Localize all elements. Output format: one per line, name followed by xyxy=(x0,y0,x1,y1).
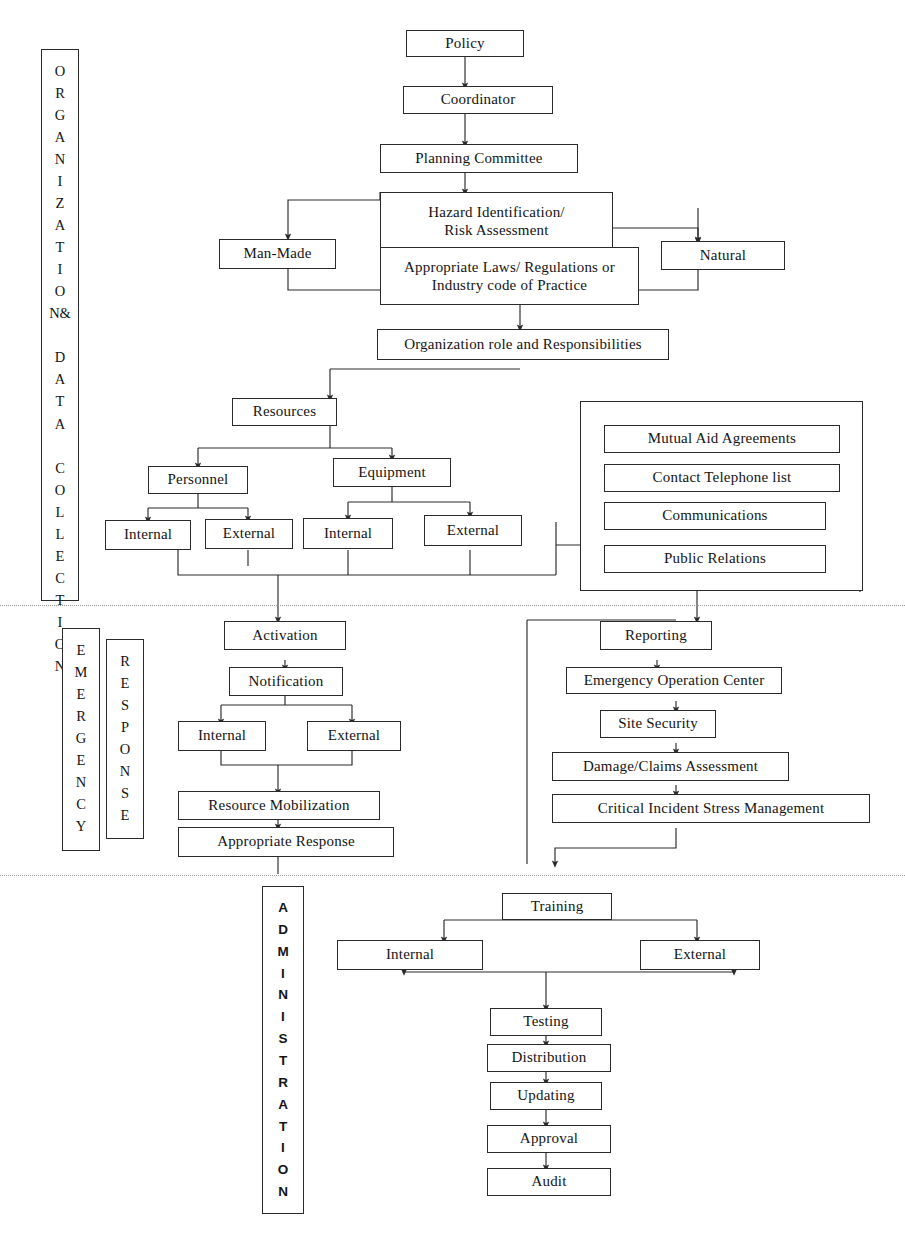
node-equipment-label: Equipment xyxy=(358,464,426,482)
connector-lines xyxy=(0,0,905,1242)
band-label-emergency-text: E M E R G E N C Y xyxy=(75,639,88,837)
node-planning-committee-label: Planning Committee xyxy=(415,150,542,168)
node-communications-label: Communications xyxy=(662,507,767,525)
node-public-relations-label: Public Relations xyxy=(664,550,766,568)
node-notification[interactable]: Notification xyxy=(229,667,343,696)
node-emergency-operation-center[interactable]: Emergency Operation Center xyxy=(566,667,782,694)
node-appropriate-laws-label: Appropriate Laws/ Regulations or Industr… xyxy=(404,258,615,295)
section-divider-top xyxy=(0,605,905,606)
node-personnel[interactable]: Personnel xyxy=(148,466,248,494)
node-appropriate-laws[interactable]: Appropriate Laws/ Regulations or Industr… xyxy=(380,247,639,305)
node-public-relations[interactable]: Public Relations xyxy=(604,545,826,573)
band-label-administration: A D M I N I S T R A T I O N xyxy=(262,886,304,1214)
node-policy-label: Policy xyxy=(445,35,485,53)
node-training-label: Training xyxy=(531,898,584,916)
node-activation[interactable]: Activation xyxy=(224,621,346,650)
node-critical-incident-stress-management[interactable]: Critical Incident Stress Management xyxy=(552,794,870,823)
node-notify-internal[interactable]: Internal xyxy=(178,721,266,751)
node-activation-label: Activation xyxy=(252,627,317,645)
node-coordinator-label: Coordinator xyxy=(441,91,516,109)
node-resources[interactable]: Resources xyxy=(232,398,337,426)
node-resources-label: Resources xyxy=(253,403,316,421)
node-personnel-internal-label: Internal xyxy=(124,526,172,544)
node-updating[interactable]: Updating xyxy=(490,1082,602,1110)
node-critical-incident-stress-management-label: Critical Incident Stress Management xyxy=(598,800,825,818)
node-personnel-label: Personnel xyxy=(168,471,229,489)
node-distribution-label: Distribution xyxy=(512,1049,587,1067)
node-site-security-label: Site Security xyxy=(618,715,698,733)
node-audit[interactable]: Audit xyxy=(487,1168,611,1196)
node-training-external[interactable]: External xyxy=(640,940,760,970)
node-personnel-external-label: External xyxy=(223,525,275,543)
node-testing[interactable]: Testing xyxy=(490,1008,602,1036)
node-audit-label: Audit xyxy=(531,1173,566,1191)
node-reporting[interactable]: Reporting xyxy=(600,621,712,650)
node-mutual-aid-agreements-label: Mutual Aid Agreements xyxy=(648,430,796,448)
node-reporting-label: Reporting xyxy=(625,627,687,645)
node-damage-claims-assessment[interactable]: Damage/Claims Assessment xyxy=(552,752,789,781)
node-man-made-label: Man-Made xyxy=(243,245,311,263)
node-notify-internal-label: Internal xyxy=(198,727,246,745)
node-testing-label: Testing xyxy=(523,1013,568,1031)
band-label-organization-text: O R G A N I Z A T I O N& D A T A C O L L… xyxy=(49,60,71,677)
node-natural-label: Natural xyxy=(700,247,746,265)
node-personnel-internal[interactable]: Internal xyxy=(105,520,191,550)
band-label-administration-text: A D M I N I S T R A T I O N xyxy=(277,897,288,1203)
node-organization-role[interactable]: Organization role and Responsibilities xyxy=(377,329,669,360)
band-label-emergency: E M E R G E N C Y xyxy=(62,628,100,851)
node-communications[interactable]: Communications xyxy=(604,502,826,530)
node-planning-committee[interactable]: Planning Committee xyxy=(380,144,578,173)
node-hazard-identification-label: Hazard Identification/ Risk Assessment xyxy=(428,203,564,240)
node-notification-label: Notification xyxy=(249,673,324,691)
node-training[interactable]: Training xyxy=(502,893,612,920)
node-distribution[interactable]: Distribution xyxy=(487,1044,611,1072)
node-hazard-identification[interactable]: Hazard Identification/ Risk Assessment xyxy=(380,192,613,250)
node-approval-label: Approval xyxy=(520,1130,578,1148)
node-resource-mobilization[interactable]: Resource Mobilization xyxy=(178,791,380,820)
node-equipment-external[interactable]: External xyxy=(424,515,522,546)
section-divider-bottom xyxy=(0,875,905,876)
node-mutual-aid-agreements[interactable]: Mutual Aid Agreements xyxy=(604,425,840,453)
band-label-organization: O R G A N I Z A T I O N& D A T A C O L L… xyxy=(41,49,79,601)
node-personnel-external[interactable]: External xyxy=(205,519,293,549)
flowchart-canvas: O R G A N I Z A T I O N& D A T A C O L L… xyxy=(0,0,905,1242)
node-training-internal[interactable]: Internal xyxy=(337,940,483,970)
node-contact-telephone-list-label: Contact Telephone list xyxy=(653,469,792,487)
node-updating-label: Updating xyxy=(517,1087,574,1105)
node-equipment-external-label: External xyxy=(447,522,499,540)
node-coordinator[interactable]: Coordinator xyxy=(403,86,553,114)
node-emergency-operation-center-label: Emergency Operation Center xyxy=(584,672,765,690)
node-equipment-internal[interactable]: Internal xyxy=(303,518,393,549)
band-label-response: R E S P O N S E xyxy=(106,639,144,839)
band-label-response-text: R E S P O N S E xyxy=(120,650,130,826)
node-equipment-internal-label: Internal xyxy=(324,525,372,543)
node-appropriate-response-label: Appropriate Response xyxy=(217,833,355,851)
node-equipment[interactable]: Equipment xyxy=(333,458,451,487)
node-notify-external[interactable]: External xyxy=(307,721,401,751)
node-training-external-label: External xyxy=(674,946,726,964)
node-policy[interactable]: Policy xyxy=(406,30,524,57)
node-man-made[interactable]: Man-Made xyxy=(219,239,336,269)
node-damage-claims-assessment-label: Damage/Claims Assessment xyxy=(583,758,758,776)
node-resource-mobilization-label: Resource Mobilization xyxy=(208,797,349,815)
node-natural[interactable]: Natural xyxy=(661,241,785,270)
node-notify-external-label: External xyxy=(328,727,380,745)
node-site-security[interactable]: Site Security xyxy=(600,710,716,738)
node-organization-role-label: Organization role and Responsibilities xyxy=(404,336,642,354)
node-approval[interactable]: Approval xyxy=(487,1125,611,1153)
node-appropriate-response[interactable]: Appropriate Response xyxy=(178,827,394,857)
node-contact-telephone-list[interactable]: Contact Telephone list xyxy=(604,464,840,492)
node-training-internal-label: Internal xyxy=(386,946,434,964)
